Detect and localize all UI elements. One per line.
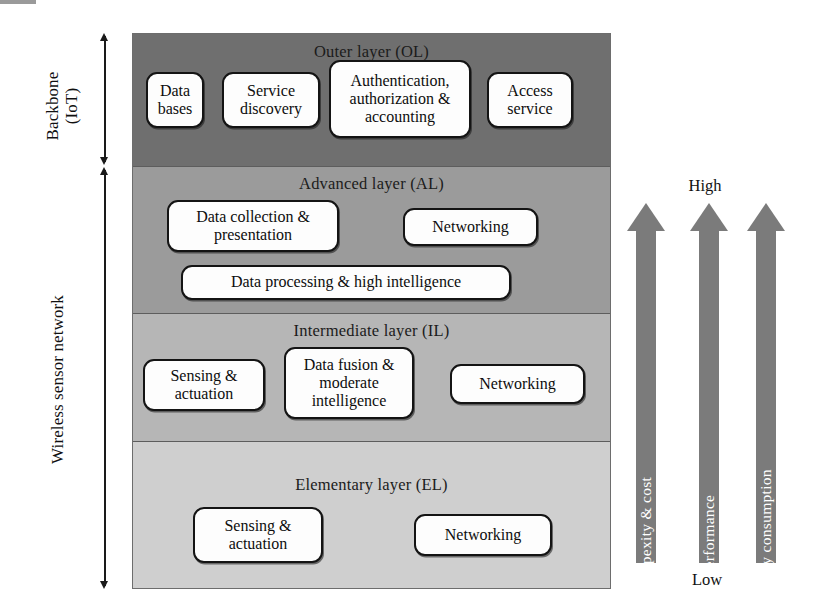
node-sensing-actuation-elementary[interactable]: Sensing & actuation	[193, 507, 323, 563]
arrow-label-performance: Performance	[700, 495, 718, 577]
arrow-energy-consumption: Energy consumption	[747, 203, 785, 563]
layer-stack: Outer layer (OL) Data bases Service disc…	[132, 33, 611, 589]
axis-arrowhead-down-wsn	[100, 581, 108, 589]
node-sensing-actuation-intermediate[interactable]: Sensing & actuation	[143, 359, 265, 411]
node-access-service[interactable]: Access service	[487, 72, 573, 128]
arrow-head-complexity-cost	[627, 203, 665, 231]
node-service-discovery[interactable]: Service discovery	[222, 72, 320, 128]
layer-title-advanced: Advanced layer (AL)	[133, 174, 610, 194]
arrow-head-performance	[690, 203, 728, 231]
axis-line-wsn	[104, 170, 106, 586]
axis-label-wireless-sensor-network: Wireless sensor network	[48, 260, 67, 500]
figure-root: Backbone (IoT) Wireless sensor network O…	[0, 0, 828, 615]
axis-arrowhead-down-backbone	[100, 157, 108, 165]
axis-arrowhead-up-backbone	[100, 33, 108, 41]
axis-arrowhead-up-wsn	[100, 167, 108, 175]
scale-label-high: High	[655, 176, 755, 196]
node-data-bases[interactable]: Data bases	[146, 72, 204, 128]
scale-label-low: Low	[657, 570, 757, 590]
arrow-label-complexity-cost: Compexity & cost	[637, 477, 655, 595]
node-data-collection-presentation[interactable]: Data collection & presentation	[167, 200, 339, 252]
node-networking-advanced[interactable]: Networking	[403, 208, 538, 246]
axis-label-backbone: Backbone (IoT)	[43, 41, 81, 171]
axis-line-backbone	[104, 36, 106, 162]
axis-tick-bottom	[0, 3, 36, 4]
layer-title-intermediate: Intermediate layer (IL)	[133, 321, 610, 341]
arrow-head-energy-consumption	[747, 203, 785, 231]
node-data-processing-high-intelligence[interactable]: Data processing & high intelligence	[181, 265, 511, 300]
node-data-fusion-moderate-intelligence[interactable]: Data fusion & moderate intelligence	[284, 347, 414, 419]
node-networking-elementary[interactable]: Networking	[414, 514, 552, 556]
node-networking-intermediate[interactable]: Networking	[450, 364, 585, 404]
arrow-complexity-cost: Compexity & cost	[627, 203, 665, 563]
arrow-performance: Performance	[690, 203, 728, 563]
layer-title-elementary: Elementary layer (EL)	[133, 475, 610, 495]
node-authentication-authorization-accounting[interactable]: Authentication, authorization & accounti…	[329, 60, 471, 138]
left-axis-group: Backbone (IoT) Wireless sensor network	[0, 0, 828, 4]
arrow-label-energy-consumption: Energy consumption	[757, 469, 775, 603]
layer-title-outer: Outer layer (OL)	[133, 42, 610, 62]
